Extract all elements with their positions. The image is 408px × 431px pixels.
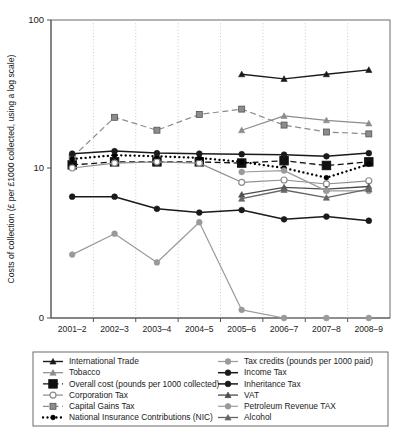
- data-point-marker: [322, 161, 330, 169]
- x-tick-label: 2006–7: [270, 324, 299, 334]
- legend-item-label: National Insurance Contributions (NIC): [69, 412, 213, 422]
- legend-item: International Trade: [43, 356, 139, 366]
- legend-item: Tax credits (pounds per 1000 paid): [218, 356, 373, 366]
- data-point-marker: [366, 315, 372, 321]
- data-point-marker: [154, 127, 160, 133]
- data-point-marker: [239, 179, 245, 185]
- data-point-marker: [196, 111, 202, 117]
- data-point-marker: [196, 210, 202, 216]
- y-axis-title: Costs of collection (£ per £1000 collect…: [6, 54, 16, 283]
- x-tick-label: 2004–5: [185, 324, 214, 334]
- y-tick-label: 10: [33, 162, 44, 173]
- legend-item: Corporation Tax: [43, 390, 129, 400]
- data-point-marker: [112, 231, 118, 237]
- x-tick-label: 2005–6: [227, 324, 256, 334]
- data-point-marker: [324, 315, 330, 321]
- data-point-marker: [324, 188, 330, 194]
- chart-root: 100100Costs of collection (£ per £1000 c…: [0, 0, 408, 431]
- data-point-marker: [366, 150, 372, 156]
- data-point-marker: [281, 152, 287, 158]
- legend-item-label: Corporation Tax: [69, 390, 129, 400]
- data-point-marker: [154, 206, 160, 212]
- data-point-marker: [281, 177, 287, 183]
- legend-item-label: Inheritance Tax: [244, 379, 301, 389]
- y-tick-label: 0: [39, 312, 44, 323]
- data-point-marker: [239, 307, 245, 313]
- data-point-marker: [49, 380, 57, 388]
- legend-item-label: Income Tax: [244, 367, 287, 377]
- legend-item-label: Tax credits (pounds per 1000 paid): [244, 356, 373, 366]
- legend-item: Tobacco: [43, 367, 101, 377]
- legend-item-label: Overall cost (pounds per 1000 collected): [69, 379, 220, 389]
- legend-item-label: Capital Gains Tax: [69, 401, 135, 411]
- data-point-marker: [112, 148, 118, 154]
- data-point-marker: [196, 160, 202, 166]
- legend-item-label: Tobacco: [69, 367, 101, 377]
- data-point-marker: [239, 159, 244, 164]
- legend-item: VAT: [218, 390, 259, 400]
- legend-item-label: VAT: [244, 390, 259, 400]
- data-point-marker: [70, 157, 75, 162]
- data-point-marker: [225, 370, 231, 376]
- legend-item: Petroleum Revenue TAX: [218, 401, 336, 411]
- data-point-marker: [196, 219, 202, 225]
- x-axis: 2001–22002–32003–42004–52005–62006–72007…: [51, 318, 390, 334]
- data-point-marker: [366, 131, 372, 137]
- x-tick-label: 2007–8: [312, 324, 341, 334]
- data-point-marker: [366, 162, 371, 167]
- data-point-marker: [366, 218, 372, 224]
- legend-item: Overall cost (pounds per 1000 collected): [43, 379, 220, 389]
- data-point-marker: [225, 403, 231, 409]
- data-point-marker: [154, 150, 160, 156]
- line-chart: 100100Costs of collection (£ per £1000 c…: [0, 0, 408, 431]
- x-tick-label: 2008–9: [354, 324, 383, 334]
- data-point-marker: [324, 175, 329, 180]
- data-point-marker: [50, 403, 56, 409]
- data-point-marker: [239, 207, 245, 213]
- legend-item-label: International Trade: [69, 356, 139, 366]
- x-tick-label: 2003–4: [143, 324, 172, 334]
- legend-item-label: Alcohol: [244, 412, 272, 422]
- data-point-marker: [112, 160, 118, 166]
- legend-item: National Insurance Contributions (NIC): [43, 412, 213, 422]
- data-point-marker: [239, 169, 245, 175]
- data-point-marker: [50, 392, 56, 398]
- legend-item: Inheritance Tax: [218, 379, 301, 389]
- data-point-marker: [112, 194, 118, 200]
- legend-item: Capital Gains Tax: [43, 401, 135, 411]
- data-point-marker: [239, 106, 245, 112]
- y-axis: 100100: [28, 14, 51, 323]
- legend-item: Income Tax: [218, 367, 287, 377]
- plot-area: 100100Costs of collection (£ per £1000 c…: [6, 14, 390, 335]
- legend: International TradeTobaccoOverall cost (…: [33, 352, 388, 426]
- y-tick-label: 100: [28, 14, 44, 25]
- data-point-marker: [154, 260, 160, 266]
- x-tick-label: 2001–2: [58, 324, 87, 334]
- data-point-marker: [112, 114, 118, 120]
- data-point-marker: [281, 315, 287, 321]
- x-tick-label: 2002–3: [100, 324, 129, 334]
- data-point-marker: [51, 415, 56, 420]
- legend-item-label: Petroleum Revenue TAX: [244, 401, 336, 411]
- data-point-marker: [239, 151, 245, 157]
- legend-item: Alcohol: [218, 412, 272, 422]
- y-axis-label: Costs of collection (£ per £1000 collect…: [6, 54, 16, 283]
- data-point-marker: [323, 129, 329, 135]
- data-point-marker: [69, 165, 75, 171]
- data-point-marker: [324, 153, 330, 159]
- data-point-marker: [69, 194, 75, 200]
- data-point-marker: [196, 151, 202, 157]
- data-point-marker: [154, 159, 160, 165]
- data-point-marker: [281, 216, 287, 222]
- data-point-marker: [225, 359, 231, 365]
- data-point-marker: [281, 122, 287, 128]
- data-point-marker: [281, 168, 287, 174]
- data-point-marker: [69, 151, 75, 157]
- data-point-marker: [69, 252, 75, 258]
- data-point-marker: [225, 381, 231, 387]
- data-point-marker: [324, 214, 330, 220]
